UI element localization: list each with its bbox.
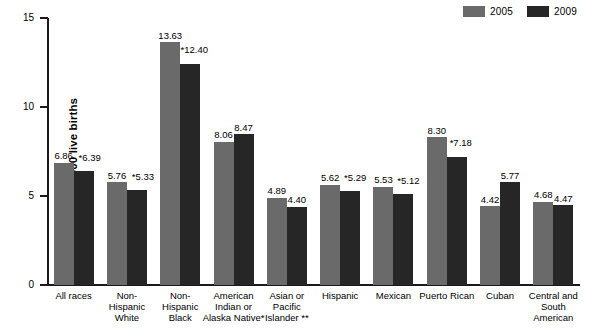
x-category-label-line: American [521, 312, 586, 323]
bar-2009-5 [340, 191, 360, 285]
x-category-label-line: Islander ** [254, 312, 319, 323]
bar-2009-8 [500, 182, 520, 285]
bar-value-label-2005-1: 5.76 [108, 171, 127, 181]
bar-value-label-2009-8: 5.77 [501, 171, 520, 181]
x-category-label-line: South [521, 301, 586, 312]
y-tick-label-15: 15 [8, 13, 34, 23]
bar-2009-6 [393, 194, 413, 285]
bar-value-label-2005-5: 5.62 [321, 173, 340, 183]
bar-2005-0 [54, 163, 74, 285]
bar-2009-2 [180, 64, 200, 285]
legend-label-2005: 2005 [490, 7, 513, 17]
bar-value-label-2005-8: 4.42 [481, 195, 500, 205]
bar-2005-5 [320, 185, 340, 285]
legend-swatch-2009 [527, 6, 549, 17]
legend-item-2009: 2009 [527, 6, 577, 17]
bar-value-label-2009-6: *5.12 [397, 176, 419, 186]
bar-2005-8 [480, 206, 500, 285]
bar-value-label-2009-5: *5.29 [344, 173, 366, 183]
bar-2005-4 [267, 198, 287, 285]
bar-2009-9 [553, 205, 573, 285]
bar-value-label-2005-4: 4.89 [268, 186, 287, 196]
bar-2005-6 [373, 187, 393, 285]
bar-2009-4 [287, 207, 307, 285]
bar-value-label-2005-0: 6.86 [54, 151, 73, 161]
bar-2009-7 [447, 157, 467, 285]
y-tick-label-0: 0 [8, 280, 34, 290]
bar-2009-3 [234, 134, 254, 285]
bar-2009-1 [127, 190, 147, 285]
x-category-label-9: Central andSouthAmerican [521, 290, 586, 323]
bar-value-label-2009-0: *6.39 [79, 153, 101, 163]
bar-value-label-2009-3: 8.47 [234, 123, 253, 133]
bar-value-label-2009-9: 4.47 [554, 194, 573, 204]
bar-value-label-2005-2: 13.63 [158, 31, 182, 41]
bar-chart: 2005 2009 Rate per 1,000 live births 151… [0, 0, 589, 334]
bar-2005-1 [107, 182, 127, 285]
bar-value-label-2005-9: 4.68 [534, 190, 553, 200]
legend-item-2005: 2005 [463, 6, 513, 17]
bar-2005-2 [160, 42, 180, 285]
bar-2005-7 [427, 137, 447, 285]
x-category-label-line: Pacific [254, 301, 319, 312]
bar-value-label-2005-6: 5.53 [374, 175, 393, 185]
y-tick-label-5: 5 [8, 191, 34, 201]
chart-legend: 2005 2009 [463, 6, 577, 17]
x-category-label-line: Central and [521, 290, 586, 301]
bar-value-label-2005-3: 8.06 [214, 130, 233, 140]
bar-value-label-2009-4: 4.40 [288, 195, 307, 205]
bar-value-label-2009-7: *7.18 [450, 138, 472, 148]
bar-2005-3 [214, 142, 234, 285]
bar-2005-9 [533, 202, 553, 285]
bar-value-label-2005-7: 8.30 [428, 126, 447, 136]
plot-area: 6.86*6.395.76*5.3313.63*12.408.068.474.8… [47, 18, 580, 285]
bar-value-label-2009-2: *12.40 [181, 45, 208, 55]
bar-value-label-2009-1: *5.33 [132, 172, 154, 182]
bar-2009-0 [74, 171, 94, 285]
legend-label-2009: 2009 [554, 7, 577, 17]
y-tick-label-10: 10 [8, 102, 34, 112]
legend-swatch-2005 [463, 6, 485, 17]
